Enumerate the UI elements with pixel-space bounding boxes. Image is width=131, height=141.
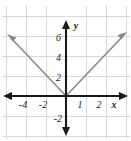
x-axis-label: x: [111, 99, 117, 110]
x-tick-label-1: 1: [78, 99, 83, 110]
graph-screenshot: -4 -2 1 2 6 4 2 -2 x y: [0, 0, 131, 141]
coordinate-plane-figure: -4 -2 1 2 6 4 2 -2 x y: [0, 0, 131, 141]
y-axis-label: y: [73, 20, 79, 31]
y-tick-label-4: 4: [56, 52, 61, 63]
y-tick-label-6: 6: [56, 32, 61, 43]
x-tick-label-minus4: -4: [19, 99, 27, 110]
y-tick-label-minus2: -2: [54, 113, 62, 124]
x-tick-label-minus2: -2: [39, 99, 47, 110]
y-tick-label-2: 2: [56, 72, 61, 83]
x-tick-label-2: 2: [97, 99, 102, 110]
